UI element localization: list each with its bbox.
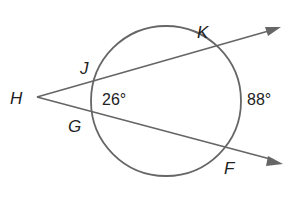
secant-diagram: H J K G F 26° 88° xyxy=(0,0,292,209)
point-label-g: G xyxy=(68,117,81,136)
arrowhead-upper-icon xyxy=(265,27,281,36)
point-label-f: F xyxy=(224,159,236,178)
secant-hk xyxy=(37,30,272,97)
point-label-k: K xyxy=(197,23,209,42)
arrowhead-lower-icon xyxy=(266,156,283,166)
arc-label-26: 26° xyxy=(102,91,126,108)
arc-label-88: 88° xyxy=(247,91,271,108)
point-label-j: J xyxy=(79,59,89,78)
point-label-h: H xyxy=(10,89,23,108)
